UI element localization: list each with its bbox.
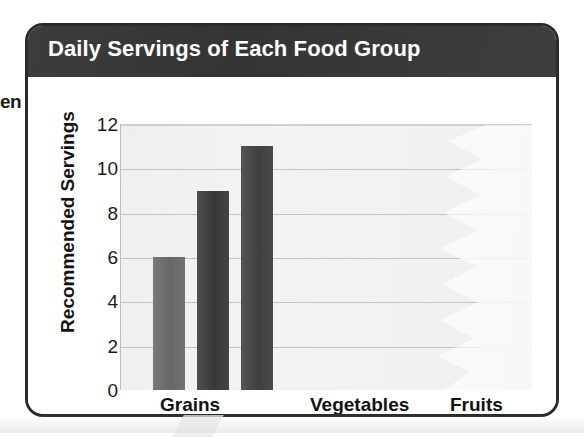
x-axis-category-label: Vegetables: [310, 394, 409, 416]
y-axis-tick-labels: 121086420: [80, 78, 118, 414]
gridline: [121, 214, 532, 215]
y-axis-tick-label: 0: [80, 381, 118, 400]
bar: [197, 191, 229, 391]
x-axis-category-label: Grains: [160, 394, 220, 416]
chart-body: Recommended Servings 121086420 GrainsVeg…: [28, 78, 556, 414]
y-axis-tick-label: 6: [80, 248, 118, 267]
gridline: [121, 125, 532, 126]
y-axis-title: Recommended Servings: [57, 107, 79, 337]
y-axis-tick-label: 4: [80, 292, 118, 311]
scan-artifact-corner: [172, 415, 224, 437]
figure-title-bar: Daily Servings of Each Food Group: [27, 25, 559, 77]
figure-title: Daily Servings of Each Food Group: [48, 36, 420, 62]
figure-frame: Daily Servings of Each Food Group Recomm…: [25, 23, 559, 417]
page-edge-text-fragment: en: [0, 91, 20, 113]
x-axis-category-label: Fruits: [450, 394, 503, 416]
scan-artifact-shadow: [0, 415, 584, 433]
bar: [153, 257, 185, 390]
bar: [241, 146, 273, 390]
y-axis-tick-label: 10: [80, 159, 118, 178]
y-axis-tick-label: 12: [80, 115, 118, 134]
y-axis-tick-label: 8: [80, 204, 118, 223]
y-axis-tick-label: 2: [80, 337, 118, 356]
plot-area: [120, 124, 532, 390]
gridline: [121, 169, 532, 170]
x-axis-tick-labels: GrainsVegetablesFruits: [120, 394, 550, 417]
